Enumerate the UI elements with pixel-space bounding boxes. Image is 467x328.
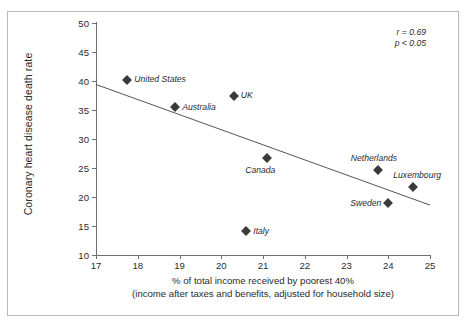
y-tick-mark: [92, 110, 96, 111]
x-tick-mark: [388, 255, 389, 259]
x-tick-mark: [138, 255, 139, 259]
data-point-label: United States: [134, 74, 186, 84]
data-point-label: Netherlands: [351, 153, 397, 163]
x-axis-title-line2: (income after taxes and benefits, adjust…: [96, 288, 430, 301]
x-axis-title-line1: % of total income received by poorest 40…: [96, 275, 430, 288]
plot-area: r = 0.69 p < 0.05 101520253035404550 171…: [96, 23, 430, 255]
chart-figure: Coronary heart disease death rate r = 0.…: [0, 0, 467, 328]
y-tick-mark: [92, 168, 96, 169]
y-tick-mark: [92, 52, 96, 53]
x-tick-mark: [221, 255, 222, 259]
y-tick-label: 20: [49, 192, 96, 203]
y-tick-mark: [92, 139, 96, 140]
x-tick-mark: [180, 255, 181, 259]
data-point-label: Italy: [253, 226, 269, 236]
y-tick-mark: [92, 226, 96, 227]
data-point-label: Australia: [182, 102, 215, 112]
y-tick-label: 50: [49, 18, 96, 29]
plot-wrapper: Coronary heart disease death rate r = 0.…: [0, 0, 467, 328]
y-tick-label: 45: [49, 47, 96, 58]
data-point-label: UK: [241, 90, 253, 100]
data-point-label: Sweden: [350, 198, 381, 208]
y-tick-label: 35: [49, 105, 96, 116]
x-tick-mark: [263, 255, 264, 259]
y-axis-title: Coronary heart disease death rate: [22, 24, 34, 244]
y-tick-mark: [92, 23, 96, 24]
x-tick-mark: [430, 255, 431, 259]
correlation-value: r = 0.69: [395, 27, 426, 38]
statistics-annotation: r = 0.69 p < 0.05: [395, 27, 426, 48]
y-tick-label: 30: [49, 134, 96, 145]
x-tick-mark: [305, 255, 306, 259]
data-point-label: Luxembourg: [393, 170, 441, 180]
y-tick-mark: [92, 197, 96, 198]
y-tick-mark: [92, 81, 96, 82]
y-tick-label: 25: [49, 163, 96, 174]
x-axis-title: % of total income received by poorest 40…: [96, 275, 430, 300]
x-tick-mark: [347, 255, 348, 259]
trend-line: [96, 23, 430, 255]
p-value: p < 0.05: [395, 38, 426, 49]
y-tick-label: 40: [49, 76, 96, 87]
x-tick-mark: [96, 255, 97, 259]
y-tick-label: 15: [49, 221, 96, 232]
data-point-label: Canada: [245, 165, 275, 175]
